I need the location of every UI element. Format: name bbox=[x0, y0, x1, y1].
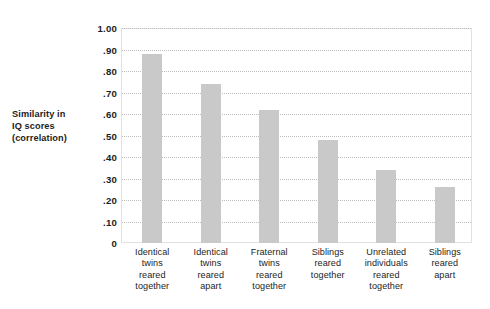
gridline bbox=[122, 93, 471, 94]
category-label-line: twins bbox=[178, 258, 244, 269]
category-label-line: Identical bbox=[119, 247, 185, 258]
category-label-line: together bbox=[119, 281, 185, 292]
category-label-line: apart bbox=[412, 270, 478, 281]
category-label-line: Identical bbox=[178, 247, 244, 258]
category-label-line: apart bbox=[178, 281, 244, 292]
category-label-line: individuals bbox=[353, 258, 419, 269]
bar-chart-figure: Similarity in IQ scores (correlation) 1.… bbox=[0, 0, 490, 309]
gridline bbox=[122, 136, 471, 137]
gridline bbox=[122, 179, 471, 180]
gridline bbox=[122, 114, 471, 115]
gridline bbox=[122, 71, 471, 72]
gridline bbox=[122, 200, 471, 201]
category-label-line: together bbox=[236, 281, 302, 292]
category-label-line: Siblings bbox=[412, 247, 478, 258]
category-label-line: Fraternal bbox=[236, 247, 302, 258]
category-label-line: together bbox=[353, 281, 419, 292]
category-label-line: reared bbox=[295, 258, 361, 269]
category-label-line: reared bbox=[178, 270, 244, 281]
category-label-line: twins bbox=[236, 258, 302, 269]
x-axis-category-labels: IdenticaltwinsrearedtogetherIdenticaltwi… bbox=[121, 247, 472, 307]
category-label: Identicaltwinsrearedapart bbox=[178, 247, 244, 293]
category-label: Siblingsrearedapart bbox=[412, 247, 478, 281]
gridline bbox=[122, 50, 471, 51]
gridline bbox=[122, 222, 471, 223]
category-label-line: reared bbox=[119, 270, 185, 281]
y-tick-label: 1.00 bbox=[83, 23, 117, 34]
category-label: Identicaltwinsrearedtogether bbox=[119, 247, 185, 293]
y-tick-label: .90 bbox=[83, 44, 117, 55]
y-tick-label: .40 bbox=[83, 152, 117, 163]
gridline bbox=[122, 157, 471, 158]
gridline bbox=[122, 28, 471, 29]
category-label: Siblingsrearedtogether bbox=[295, 247, 361, 281]
plot-area bbox=[121, 28, 472, 243]
category-label-line: reared bbox=[353, 270, 419, 281]
category-label: Unrelatedindividualsrearedtogether bbox=[353, 247, 419, 293]
y-tick-label: .70 bbox=[83, 87, 117, 98]
y-tick-label: .10 bbox=[83, 216, 117, 227]
category-label-line: reared bbox=[412, 258, 478, 269]
category-label-line: Unrelated bbox=[353, 247, 419, 258]
category-label: Fraternaltwinsrearedtogether bbox=[236, 247, 302, 293]
y-tick-label: 0 bbox=[83, 238, 117, 249]
category-label-line: reared bbox=[236, 270, 302, 281]
category-label-line: Siblings bbox=[295, 247, 361, 258]
y-tick-label: .20 bbox=[83, 195, 117, 206]
y-tick-label: .60 bbox=[83, 109, 117, 120]
y-tick-label: .30 bbox=[83, 173, 117, 184]
y-tick-label: .50 bbox=[83, 130, 117, 141]
category-label-line: together bbox=[295, 270, 361, 281]
y-tick-label: .80 bbox=[83, 66, 117, 77]
category-label-line: twins bbox=[119, 258, 185, 269]
y-axis-tick-labels: 1.00.90.80.70.60.50.40.30.20.100 bbox=[79, 28, 117, 243]
